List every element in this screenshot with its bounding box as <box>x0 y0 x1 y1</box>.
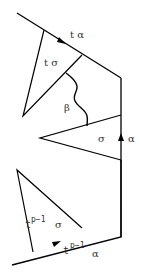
diagram-canvas: t α t σ β σ α t p−1 σ t p−1 α <box>0 0 143 275</box>
bottom-edge-arrow-icon <box>52 241 61 247</box>
label-upper-triangle: t σ <box>44 57 58 68</box>
label-lower-triangle-exp: p−1 <box>31 215 46 224</box>
label-bottom-edge-base: t <box>63 245 69 256</box>
label-bottom-edge-exp: p−1 <box>70 241 85 250</box>
label-bottom-edge-sym: α <box>92 248 99 259</box>
lower-triangle <box>17 170 82 252</box>
wavy-beta-path <box>66 73 87 126</box>
label-wavy-beta: β <box>64 102 70 113</box>
label-lower-triangle-sym: σ <box>55 219 62 230</box>
label-right-edge: α <box>128 133 135 144</box>
upper-triangle <box>23 30 82 116</box>
bottom-edge <box>12 208 121 265</box>
label-top-edge: t α <box>70 29 84 40</box>
label-middle-triangle: σ <box>98 133 105 144</box>
middle-triangle <box>40 115 121 160</box>
top-edge-arrow-icon <box>57 37 66 44</box>
right-edge-arrow-icon <box>118 133 124 141</box>
